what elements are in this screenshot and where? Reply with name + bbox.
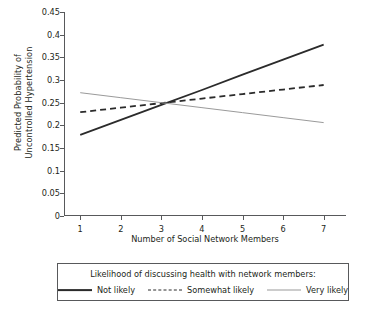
y-axis-title-line-1: Predicted Probability of [13, 8, 24, 198]
y-axis-tick-mark [60, 103, 64, 104]
x-axis-tick-mark [80, 216, 81, 220]
plot-area: 00.050.10.150.20.250.30.350.40.45 123456… [64, 12, 346, 216]
legend-items: Not likelySomewhat likelyVery likely [58, 285, 348, 295]
x-axis-tick-label: 1 [78, 225, 83, 233]
y-axis-tick-label: 0.2 [47, 121, 60, 129]
legend-item-somewhat-likely[interactable]: Somewhat likely [148, 285, 254, 295]
legend-swatch-icon [58, 287, 92, 293]
series-line-not-likely [80, 45, 323, 135]
series-lines [64, 12, 346, 216]
x-axis-tick-mark [161, 216, 162, 220]
x-axis-title: Number of Social Network Members [64, 234, 346, 244]
x-axis-tick-label: 3 [159, 225, 164, 233]
y-axis-tick-mark [60, 125, 64, 126]
y-axis-title: Predicted Probability of Uncontrolled Hy… [13, 8, 34, 198]
legend-swatch-icon [267, 287, 301, 293]
y-axis-tick-mark [60, 35, 64, 36]
legend-item-label: Very likely [306, 285, 348, 295]
legend-item-not-likely[interactable]: Not likely [58, 285, 135, 295]
y-axis-tick-label: 0.45 [42, 8, 60, 16]
y-axis-tick-label: 0.05 [42, 189, 60, 197]
y-axis-tick-mark [60, 148, 64, 149]
y-axis-tick-mark [60, 193, 64, 194]
y-axis-tick-mark [60, 80, 64, 81]
x-axis-tick-label: 4 [199, 225, 204, 233]
y-axis-tick-label: 0.4 [47, 31, 60, 39]
legend-swatch-icon [148, 287, 182, 293]
legend-item-very-likely[interactable]: Very likely [267, 285, 348, 295]
y-axis-tick-label: 0.3 [47, 76, 60, 84]
x-axis-tick-label: 5 [240, 225, 245, 233]
y-axis-tick-mark [60, 12, 64, 13]
x-axis-tick-label: 2 [118, 225, 123, 233]
chart-figure: Predicted Probability of Uncontrolled Hy… [0, 0, 365, 311]
legend-item-label: Somewhat likely [187, 285, 254, 295]
legend-item-label: Not likely [97, 285, 135, 295]
chart-legend: Likelihood of discussing health with net… [57, 263, 349, 301]
y-axis-tick-mark [60, 57, 64, 58]
x-axis-tick-mark [202, 216, 203, 220]
x-axis-tick-label: 6 [280, 225, 285, 233]
y-axis-title-line-2: Uncontrolled Hypertension [23, 8, 34, 198]
y-axis-tick-label: 0.15 [42, 144, 60, 152]
y-axis-tick-label: 0.1 [47, 167, 60, 175]
x-axis-tick-mark [121, 216, 122, 220]
legend-title: Likelihood of discussing health with net… [58, 269, 348, 279]
x-axis-tick-label: 7 [321, 225, 326, 233]
x-axis-tick-mark [243, 216, 244, 220]
y-axis-tick-mark [60, 171, 64, 172]
x-axis-tick-mark [283, 216, 284, 220]
series-line-very-likely [80, 93, 323, 123]
y-axis-tick-label: 0.35 [42, 53, 60, 61]
y-axis-tick-mark [60, 216, 64, 217]
y-axis-tick-label: 0.25 [42, 99, 60, 107]
y-axis-tick-labels: 00.050.10.150.20.250.30.350.40.45 [34, 12, 60, 216]
x-axis-tick-mark [324, 216, 325, 220]
